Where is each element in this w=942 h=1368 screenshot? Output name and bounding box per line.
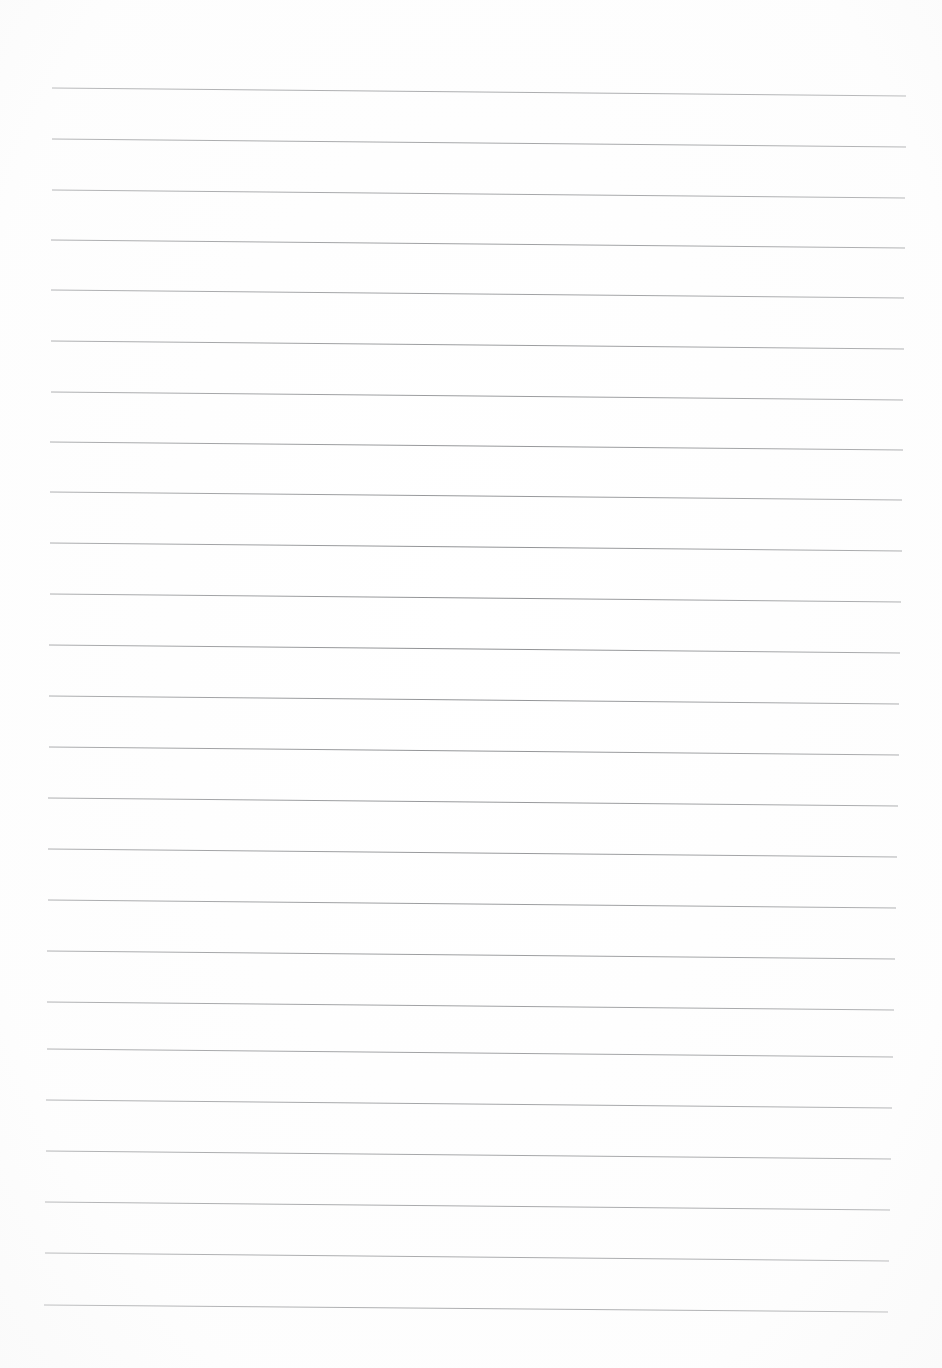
ruled-line xyxy=(46,1151,891,1159)
ruled-line xyxy=(50,543,902,551)
ruled-line xyxy=(51,290,904,298)
ruled-line xyxy=(44,1305,888,1312)
ruled-line xyxy=(47,1002,894,1010)
ruled-line xyxy=(52,88,906,96)
ruled-line xyxy=(51,392,903,400)
ruled-line xyxy=(45,1253,889,1261)
ruled-line xyxy=(49,696,899,704)
ruled-line xyxy=(48,798,898,806)
ruled-line xyxy=(50,594,901,602)
ruled-line xyxy=(48,900,896,908)
ruled-line xyxy=(46,1100,892,1108)
ruled-line xyxy=(48,849,897,857)
ruled-line xyxy=(51,240,905,248)
ruled-line xyxy=(51,341,904,349)
ruled-line xyxy=(49,645,900,653)
ruled-line xyxy=(52,139,906,147)
ruled-line xyxy=(49,747,899,755)
ruled-lines-layer xyxy=(0,0,942,1368)
ruled-line xyxy=(52,190,905,198)
ruled-line xyxy=(47,1049,893,1057)
ruled-line xyxy=(50,442,903,450)
ruled-line xyxy=(50,492,902,500)
scanned-page xyxy=(0,0,942,1368)
ruled-line xyxy=(45,1202,890,1210)
ruled-line xyxy=(47,951,895,959)
